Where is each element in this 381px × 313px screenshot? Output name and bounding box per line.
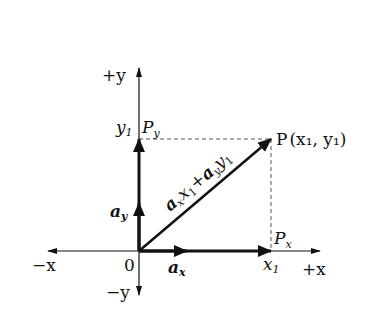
x1-label: x1	[263, 254, 280, 276]
ax-label: ax	[168, 257, 186, 279]
pos-y-label: +y	[102, 65, 126, 85]
neg-y-label: −y	[106, 282, 130, 302]
px-label: Px	[273, 228, 292, 251]
resultant-vector	[139, 139, 271, 251]
py-label: Py	[141, 117, 160, 140]
resultant-label: axx1+ayy1	[160, 147, 237, 217]
point-p-label: P(x₁, y₁)	[276, 129, 346, 149]
neg-x-label: −x	[32, 255, 56, 275]
pos-x-label: +x	[302, 259, 326, 279]
origin-label: 0	[124, 255, 135, 275]
vector-diagram: +y −y −x +x 0 y1 Py P(x₁, y₁) Px x1 ax a…	[0, 0, 381, 313]
svg-text:axx1+ayy1: axx1+ayy1	[160, 147, 237, 217]
y1-label: y1	[115, 117, 133, 139]
ay-label: ay	[110, 201, 129, 223]
